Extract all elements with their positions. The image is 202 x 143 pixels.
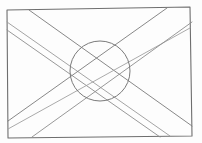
band-descending-line-2 [7, 22, 170, 136]
flag-border [7, 7, 192, 138]
band-descending-line-1 [29, 10, 192, 126]
band-ascending-line-3 [32, 22, 192, 137]
saltire-band-descending [7, 10, 192, 137]
saltire-band-ascending [8, 8, 192, 137]
band-ascending-line-1 [8, 8, 167, 121]
flag-sketch [0, 0, 202, 143]
flag-drawing [0, 0, 202, 143]
